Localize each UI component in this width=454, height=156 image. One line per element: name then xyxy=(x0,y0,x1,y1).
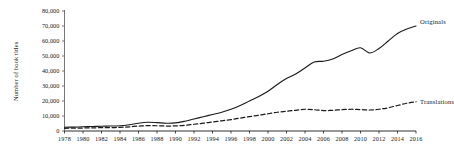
axis-ticks xyxy=(62,11,416,134)
axis-lines xyxy=(65,10,417,131)
chart-container: Number of book titles 010,00020,00030,00… xyxy=(0,0,454,156)
series-label-translations: Translations xyxy=(420,98,454,105)
series-line-originals xyxy=(65,26,417,127)
series-label-originals: Originals xyxy=(420,18,446,25)
plot-area xyxy=(0,0,454,156)
data-series xyxy=(65,26,417,128)
